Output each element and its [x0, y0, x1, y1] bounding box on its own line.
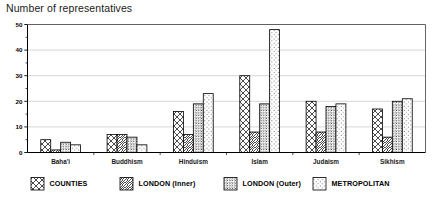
legend-item[interactable]: LONDON (Inner): [120, 178, 196, 191]
bar[interactable]: [270, 30, 280, 153]
bar-group: [41, 140, 81, 153]
chart-container: Number of representatives: [0, 0, 435, 206]
bar[interactable]: [392, 101, 402, 152]
legend-swatch: [120, 178, 133, 191]
bar[interactable]: [71, 145, 81, 153]
y-tick-label: 50: [16, 21, 23, 28]
legend-label: METROPOLITAN: [332, 179, 390, 188]
x-tick-label: Hinduism: [179, 158, 208, 165]
bar[interactable]: [260, 104, 270, 153]
legend-label: LONDON (Outer): [243, 179, 302, 188]
bar[interactable]: [173, 112, 183, 153]
x-axis-labels: Baha'iBuddhismHinduismIslamJudaismSikhis…: [51, 153, 405, 165]
legend-label: LONDON (Inner): [139, 179, 196, 188]
y-tick-label: 20: [16, 98, 23, 105]
legend-label: COUNTIES: [50, 179, 88, 188]
bar[interactable]: [193, 104, 203, 153]
bar[interactable]: [316, 132, 326, 152]
x-tick-label: Islam: [251, 158, 268, 165]
bar[interactable]: [306, 101, 316, 152]
chart-legend: COUNTIESLONDON (Inner)LONDON (Outer)METR…: [31, 178, 390, 191]
bar[interactable]: [117, 135, 127, 153]
bar-group: [173, 94, 213, 153]
bar[interactable]: [61, 142, 71, 152]
legend-item[interactable]: METROPOLITAN: [313, 178, 390, 191]
y-axis-ticks: 01020304050: [16, 21, 28, 156]
bars-group: [41, 30, 412, 153]
bar-group: [240, 30, 280, 153]
x-tick-label: Baha'i: [51, 158, 70, 165]
bar-group: [107, 135, 147, 153]
plot-area: 01020304050 Baha'iBuddhismHinduismIslamJ…: [0, 0, 435, 206]
bar[interactable]: [382, 137, 392, 152]
bar[interactable]: [240, 76, 250, 153]
x-tick-label: Sikhism: [380, 158, 405, 165]
bar[interactable]: [183, 135, 193, 153]
bar[interactable]: [250, 132, 260, 152]
y-tick-label: 30: [16, 72, 23, 79]
bar[interactable]: [336, 104, 346, 153]
bar[interactable]: [41, 140, 51, 153]
legend-item[interactable]: LONDON (Outer): [224, 178, 302, 191]
bar[interactable]: [137, 145, 147, 153]
legend-item[interactable]: COUNTIES: [31, 178, 88, 191]
bar[interactable]: [402, 99, 412, 153]
bar[interactable]: [127, 137, 137, 152]
x-tick-label: Judaism: [313, 158, 339, 165]
bar[interactable]: [372, 109, 382, 153]
y-tick-label: 10: [16, 123, 23, 130]
legend-swatch: [31, 178, 44, 191]
bar[interactable]: [203, 94, 213, 153]
legend-swatch: [224, 178, 237, 191]
bar-group: [372, 99, 412, 153]
grid-lines: [28, 25, 426, 127]
y-tick-label: 0: [19, 149, 23, 156]
bar-group: [306, 101, 346, 152]
bar-chart-svg: 01020304050 Baha'iBuddhismHinduismIslamJ…: [0, 0, 435, 206]
bar[interactable]: [107, 135, 117, 153]
x-tick-label: Buddhism: [111, 158, 143, 165]
y-tick-label: 40: [16, 46, 23, 53]
bar[interactable]: [326, 106, 336, 152]
plot-frame: [28, 25, 426, 153]
legend-swatch: [313, 178, 326, 191]
